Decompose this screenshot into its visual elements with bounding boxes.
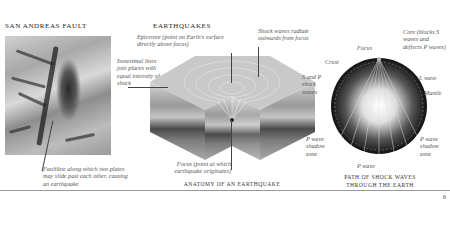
earth-cross-section: [329, 56, 429, 156]
san-andreas-title: SAN ANDREAS FAULT: [5, 22, 87, 30]
focus-earth-label: Focus: [357, 44, 372, 51]
path-caption-line2: THROUGH THE EARTH: [330, 181, 430, 189]
epicentre-leader-line: [231, 53, 232, 83]
crust-label: Crust: [325, 58, 339, 65]
earthquake-block-diagram: [150, 40, 315, 160]
san-andreas-aerial-photo: [5, 36, 111, 155]
core-label: Core (blocks S waves and deflects P wave…: [403, 28, 449, 50]
s-and-p-waves-label: S and P shock waves: [302, 73, 332, 95]
shock-waves-leader-line: [258, 47, 259, 77]
page-divider: [0, 190, 450, 191]
l-wave-label: L wave: [419, 74, 437, 81]
p-wave-shadow-left-label: P wave shadow zone: [306, 135, 336, 157]
earthquakes-title: EARTHQUAKES: [153, 22, 211, 30]
path-caption: PATH OF SHOCK WAVES THROUGH THE EARTH: [330, 173, 430, 189]
p-wave-shadow-right-label: P wave shadow zone: [420, 135, 450, 157]
isoseismal-leader-line: [128, 87, 168, 88]
anatomy-caption: ANATOMY OF AN EARTHQUAKE: [172, 180, 292, 188]
path-caption-line1: PATH OF SHOCK WAVES: [330, 173, 430, 181]
focus-leader-line: [231, 120, 232, 170]
focus-label: Focus (point at which earthquake origina…: [165, 160, 231, 175]
faultline-label: Faultline along which two plates may sli…: [43, 165, 133, 187]
mantle-label: Mantle: [424, 89, 442, 96]
page-number: 6: [443, 194, 446, 200]
p-wave-label: P wave: [357, 162, 375, 169]
